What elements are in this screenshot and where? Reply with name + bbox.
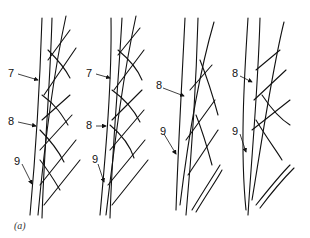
panel-1-label-8: 8: [8, 116, 14, 127]
panel-3: [163, 18, 222, 215]
panel-4-label-8: 8: [232, 68, 238, 79]
fiber-lattice-diagram: [0, 0, 310, 238]
figure-caption: (a): [14, 220, 26, 231]
panel-2-label-8: 8: [86, 120, 92, 131]
panel-3-label-9: 9: [160, 126, 166, 137]
panel-1-label-9: 9: [14, 156, 20, 167]
panel-2-label-9: 9: [92, 154, 98, 165]
panel-1-label-7: 7: [8, 68, 14, 79]
panel-3-label-8: 8: [156, 80, 162, 91]
panel-2: [96, 16, 148, 218]
panel-2-label-7: 7: [86, 68, 92, 79]
panel-4-label-9: 9: [232, 126, 238, 137]
panel-4: [240, 18, 294, 215]
panel-1: [18, 16, 80, 218]
